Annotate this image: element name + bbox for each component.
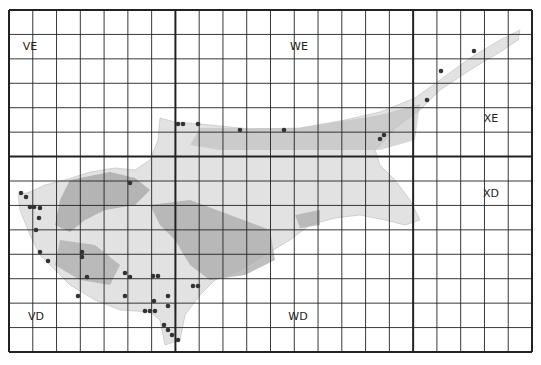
- record-dot: [19, 191, 24, 196]
- record-dot: [166, 328, 171, 333]
- record-dot: [181, 122, 186, 127]
- record-dot: [282, 128, 287, 133]
- record-dot: [80, 255, 85, 260]
- record-dot: [152, 299, 157, 304]
- record-dot: [196, 284, 201, 289]
- record-dot: [191, 284, 196, 289]
- record-dot: [143, 309, 148, 314]
- record-dot: [123, 271, 128, 276]
- record-dot: [32, 205, 37, 210]
- distribution-map: VEWEXEXDVDWD: [0, 0, 541, 365]
- square-label-xe: XE: [484, 112, 499, 125]
- cyprus-island: [18, 30, 520, 345]
- record-dot: [38, 206, 43, 211]
- record-dot: [28, 205, 33, 210]
- record-dot: [472, 49, 477, 54]
- record-dot: [176, 338, 181, 343]
- record-dot: [382, 133, 387, 138]
- record-dot: [151, 274, 156, 279]
- record-dot: [176, 122, 181, 127]
- square-label-ve: VE: [23, 40, 38, 53]
- square-label-vd: VD: [28, 310, 44, 323]
- record-dot: [37, 216, 42, 221]
- record-dot: [128, 275, 133, 280]
- record-dot: [425, 98, 430, 103]
- square-label-xd: XD: [483, 187, 499, 200]
- record-dot: [166, 304, 171, 309]
- record-dot: [378, 137, 383, 142]
- record-dot: [85, 275, 90, 280]
- record-dot: [156, 274, 161, 279]
- record-dot: [153, 309, 158, 314]
- record-dot: [162, 323, 167, 328]
- record-dot: [76, 294, 81, 299]
- square-label-we: WE: [290, 40, 308, 53]
- square-label-wd: WD: [288, 310, 307, 323]
- record-dot: [238, 128, 243, 133]
- record-dot: [166, 294, 171, 299]
- record-dot: [38, 250, 43, 255]
- record-dot: [46, 259, 51, 264]
- record-dot: [123, 294, 128, 299]
- record-dot: [34, 228, 39, 233]
- record-dot: [24, 195, 29, 200]
- record-dot: [148, 309, 153, 314]
- grid-lines: [9, 10, 532, 352]
- record-dot: [439, 69, 444, 74]
- record-dot: [80, 250, 85, 255]
- record-dot: [196, 122, 201, 127]
- record-dot: [128, 181, 133, 186]
- record-dot: [170, 333, 175, 338]
